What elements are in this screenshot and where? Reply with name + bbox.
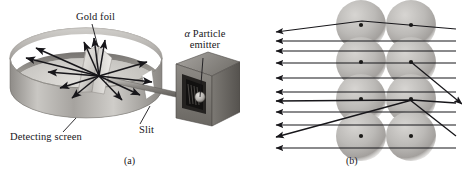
alpha-emitter-box: [176, 52, 240, 126]
label-slit: Slit: [139, 124, 154, 135]
label-gold-foil: Gold foil: [76, 11, 115, 22]
panel-a-apparatus: Gold foil α Particle emitter Detecting s…: [0, 0, 240, 180]
panel-b-atomic-model: (b): [240, 0, 462, 180]
caption-panel-a: (a): [124, 155, 135, 166]
atom-grid: [336, 0, 436, 161]
caption-panel-b: (b): [346, 155, 358, 166]
atom: [386, 111, 436, 161]
figure-root: Gold foil α Particle emitter Detecting s…: [0, 0, 462, 180]
label-detecting-screen: Detecting screen: [10, 131, 82, 142]
alpha-particle-word: Particle: [190, 28, 226, 39]
leader-detecting-screen: [63, 118, 76, 132]
atomic-model-illustration: [240, 0, 462, 180]
label-alpha-particle-emitter: α Particle emitter: [168, 28, 242, 50]
emitter-word: emitter: [190, 39, 220, 50]
apparatus-illustration: [0, 0, 240, 180]
